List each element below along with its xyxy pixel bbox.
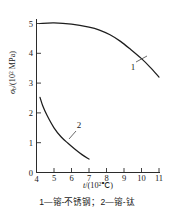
y-tick-label: 0 (29, 168, 33, 178)
y-tick-label: 1 (29, 138, 33, 148)
y-axis-unit-close: MPa) (8, 51, 17, 71)
series-line-2 (40, 97, 89, 159)
series-label-2: 2 (77, 120, 82, 130)
series-label-1: 1 (131, 62, 136, 72)
x-axis-unit-close: ℃) (101, 181, 113, 190)
y-tick-label: 3 (29, 78, 33, 88)
y-axis-title: σb/(102 MPa) (8, 31, 17, 115)
series-annotation-2: 2 (69, 120, 81, 139)
y-tick-label: 4 (29, 48, 34, 58)
y-axis-variable: σ (8, 90, 17, 94)
y-tick-label: 2 (29, 108, 33, 118)
series-line-1 (40, 23, 159, 77)
x-axis-ticks (37, 168, 160, 173)
series-annotation-1: 1 (131, 56, 147, 72)
figure-caption: 1—镕-不锈钢；2—镕-钛 (0, 195, 174, 207)
y-axis-unit-open: /(10 (8, 74, 17, 87)
y-tick-label: 5 (29, 19, 33, 29)
x-axis-unit-open: /(10 (85, 181, 98, 190)
y-axis-tick-labels: 0 1 2 3 4 5 (29, 19, 34, 178)
figure-container: 0 1 2 3 4 5 4 5 6 7 8 9 10 11 (0, 0, 174, 212)
x-axis-exponent: 2 (98, 181, 101, 187)
x-axis-title: t/(102℃) (36, 180, 160, 190)
